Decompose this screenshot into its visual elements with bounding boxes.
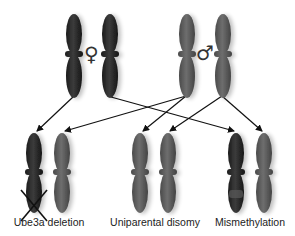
label-mismethylation: Mismethylation xyxy=(215,216,285,228)
chromosome-inheritance-diagram xyxy=(0,0,295,236)
arrow-maternal-to-deletion xyxy=(37,97,73,131)
mismethylation-paternal-chromosome xyxy=(255,133,273,213)
inheritance-arrows xyxy=(37,96,262,131)
mismethylation-patch xyxy=(229,190,243,198)
paternal-chromosome-2 xyxy=(214,14,232,98)
label-uniparental-disomy: Uniparental disomy xyxy=(110,216,200,228)
label-ube3a-deletion: Ube3a deletion xyxy=(14,216,85,228)
arrow-paternal-to-mismethylation xyxy=(222,96,262,131)
maternal-chromosome-1 xyxy=(65,14,83,98)
mismethylation-maternal-chromosome xyxy=(227,133,245,213)
arrow-paternal-to-upd-1 xyxy=(143,96,186,131)
paternal-chromosome-1 xyxy=(178,14,196,98)
female-symbol-icon: ♀ xyxy=(84,44,99,64)
maternal-chromosome-2 xyxy=(101,14,119,98)
arrow-maternal-to-mismethylation xyxy=(111,97,234,131)
male-symbol-icon: ♂ xyxy=(196,43,214,63)
upd-paternal-chromosome-2 xyxy=(159,133,177,213)
deletion-maternal-chromosome xyxy=(25,133,43,213)
deletion-paternal-chromosome xyxy=(53,133,71,213)
upd-paternal-chromosome-1 xyxy=(131,133,149,213)
